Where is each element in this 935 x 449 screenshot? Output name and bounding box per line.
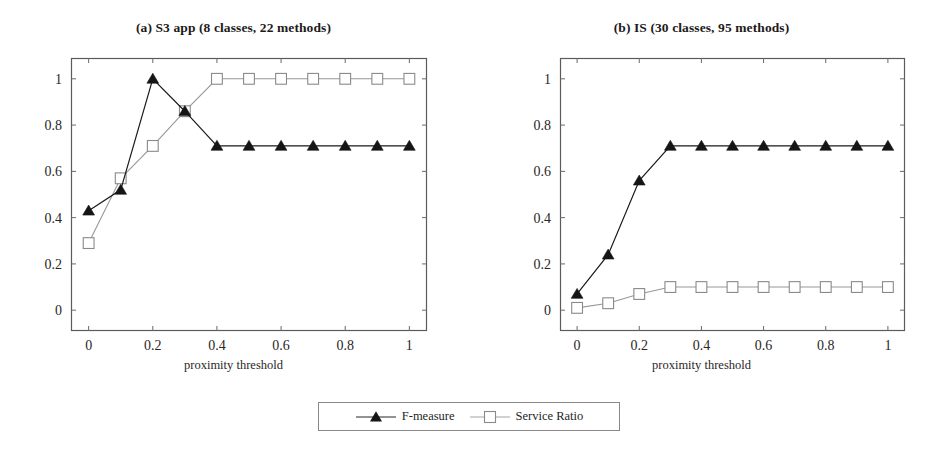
panel-b-svg: 00.20.40.60.8100.20.40.60.81: [560, 58, 905, 331]
svg-text:0.6: 0.6: [755, 338, 773, 353]
svg-text:0: 0: [55, 303, 62, 318]
svg-text:0.2: 0.2: [631, 338, 649, 353]
svg-text:0.8: 0.8: [817, 338, 835, 353]
svg-text:0.2: 0.2: [45, 257, 63, 272]
panel-a-plot: 00.20.40.60.8100.20.40.60.81: [71, 58, 427, 331]
svg-text:0.8: 0.8: [45, 118, 63, 133]
svg-text:1: 1: [544, 72, 551, 87]
svg-text:0.4: 0.4: [45, 211, 63, 226]
svg-text:0.8: 0.8: [336, 338, 354, 353]
legend-label-f-measure: F-measure: [402, 409, 455, 424]
panel-a: (a) S3 app (8 classes, 22 methods) 00.20…: [0, 0, 467, 390]
svg-text:0: 0: [574, 338, 581, 353]
svg-text:0.6: 0.6: [534, 164, 552, 179]
svg-text:0: 0: [544, 303, 551, 318]
svg-text:0.4: 0.4: [693, 338, 711, 353]
svg-text:0.6: 0.6: [272, 338, 290, 353]
panel-a-svg: 00.20.40.60.8100.20.40.60.81: [71, 58, 427, 331]
svg-text:0.4: 0.4: [208, 338, 226, 353]
svg-text:1: 1: [55, 72, 62, 87]
panel-b-plot: 00.20.40.60.8100.20.40.60.81: [560, 58, 905, 331]
panel-b-title: (b) IS (30 classes, 95 methods): [468, 20, 935, 36]
legend-label-service-ratio: Service Ratio: [516, 409, 584, 424]
panel-b-xaxis-label: proximity threshold: [468, 358, 935, 373]
svg-text:0.2: 0.2: [144, 338, 162, 353]
legend-entry-service-ratio: Service Ratio: [469, 409, 584, 425]
svg-text:0.6: 0.6: [45, 164, 63, 179]
panel-a-xaxis-label: proximity threshold: [0, 358, 467, 373]
open-square-icon: [469, 409, 511, 425]
panel-b: (b) IS (30 classes, 95 methods) 00.20.40…: [468, 0, 935, 390]
filled-triangle-icon: [355, 409, 397, 425]
svg-text:0.2: 0.2: [534, 257, 552, 272]
panel-a-title: (a) S3 app (8 classes, 22 methods): [0, 20, 467, 36]
svg-text:1: 1: [406, 338, 413, 353]
legend: F-measure Service Ratio: [318, 402, 620, 431]
figure: (a) S3 app (8 classes, 22 methods) 00.20…: [0, 0, 935, 449]
svg-text:1: 1: [884, 338, 891, 353]
svg-text:0: 0: [85, 338, 92, 353]
legend-entry-f-measure: F-measure: [355, 409, 455, 425]
svg-text:0.4: 0.4: [534, 211, 552, 226]
svg-text:0.8: 0.8: [534, 118, 552, 133]
